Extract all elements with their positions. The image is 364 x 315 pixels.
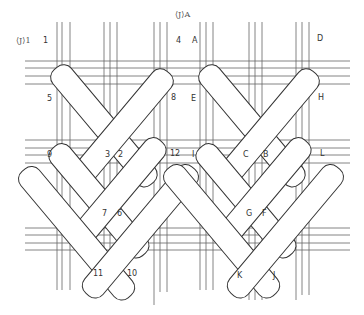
label-E: E [191,95,196,103]
label-F: F [262,210,267,218]
label-K: K [237,272,242,280]
label-L: L [320,150,324,158]
label-G: G [246,210,252,218]
label-J: J [273,272,275,280]
label-H: H [318,94,324,102]
label-10: 10 [127,270,137,278]
label-C: C [243,151,249,159]
weaving-diagram [0,0,364,315]
label-1: 1 [43,37,48,45]
label-I: I [192,151,194,159]
label-D: D [317,35,323,43]
label-12: 12 [170,150,180,158]
label-B: B [263,151,269,159]
title-right: ⟨J⟩A [175,10,190,19]
label-7: 7 [102,210,107,218]
label-8: 8 [171,94,176,102]
title-left: ⟨J⟩1 [16,36,31,45]
woven-strips [14,61,347,305]
label-5: 5 [47,95,52,103]
label-6: 6 [117,210,122,218]
label-3: 3 [105,151,110,159]
label-9: 9 [47,151,52,159]
label-2: 2 [118,151,123,159]
label-A: A [192,37,197,45]
label-11: 11 [93,270,103,278]
label-4: 4 [176,37,181,45]
